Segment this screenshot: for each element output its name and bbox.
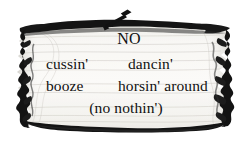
sign-word-horsin-around: horsin' around bbox=[118, 78, 208, 94]
sign-word-dancin: dancin' bbox=[128, 56, 173, 72]
sign-word-booze: booze bbox=[46, 78, 84, 94]
sign-word-cussin: cussin' bbox=[46, 56, 88, 72]
sign-line-no: NO bbox=[0, 31, 248, 47]
sign-text-layer: NO cussin' dancin' booze horsin' around … bbox=[0, 0, 248, 141]
sign-line-no-nothin: (no nothin') bbox=[0, 100, 248, 116]
wooden-sign-illustration: NO cussin' dancin' booze horsin' around … bbox=[0, 0, 248, 141]
